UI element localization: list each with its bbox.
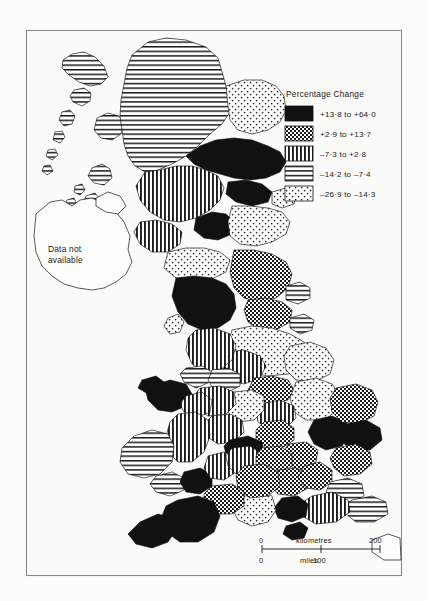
uk-percentage-change-map: Data not available Percentage Change +13… — [0, 0, 427, 601]
legend-swatch-solid-black — [285, 106, 313, 121]
scalebar-km-min: 0 — [259, 536, 263, 545]
map-canvas: Data not available Percentage Change +13… — [0, 0, 427, 601]
legend-swatch-horizontal-lines — [285, 166, 313, 181]
data-not-available-line1: Data not — [48, 244, 82, 254]
legend-label-2: –7·3 to +2·8 — [320, 150, 367, 159]
legend-swatch-dense-checker — [285, 126, 313, 141]
data-not-available-line2: available — [48, 255, 83, 265]
scalebar-miles-min: 0 — [259, 556, 263, 565]
legend-label-1: +2·9 to +13·7 — [320, 130, 371, 139]
scalebar-miles-label: miles — [300, 556, 318, 565]
legend-label-3: –14·2 to –7·4 — [320, 170, 371, 179]
scalebar-km-label: kilometres — [296, 536, 332, 545]
legend-label-4: –26·9 to –14·3 — [320, 190, 376, 199]
legend-label-0: +13·8 to +64·0 — [320, 110, 376, 119]
legend-title: Percentage Change — [286, 89, 364, 99]
legend-swatch-sparse-dots — [285, 186, 313, 201]
scalebar-km-max: 200 — [369, 536, 382, 545]
data-not-available-note: Data not available — [48, 244, 83, 265]
legend-swatch-vertical-lines — [285, 146, 313, 161]
